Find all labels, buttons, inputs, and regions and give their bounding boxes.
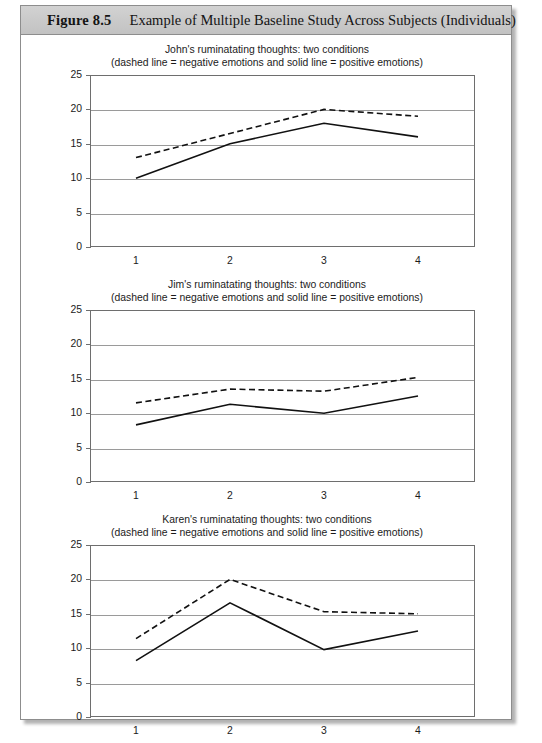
figure-number: Figure 8.5 (47, 12, 112, 29)
series-layer (90, 545, 475, 717)
x-axis-label: 1 (116, 490, 156, 501)
y-axis-label: 10 (42, 643, 82, 653)
series-layer (90, 75, 475, 247)
chart-subtitle-line: (dashed line = negative emotions and sol… (21, 526, 513, 539)
series-line-dashed (136, 377, 418, 403)
x-axis-label: 1 (116, 255, 156, 266)
y-axis-label: 5 (42, 678, 82, 688)
y-axis-label: 20 (42, 574, 82, 584)
figure-page: Figure 8.5 Example of Multiple Baseline … (0, 0, 542, 743)
y-axis-label: 0 (42, 477, 82, 487)
chart-title: Karen's ruminatating thoughts: two condi… (21, 505, 513, 539)
series-line-solid (136, 396, 418, 425)
y-axis-label: 10 (42, 173, 82, 183)
plot-wrapper: 25201510501234 (21, 75, 513, 273)
x-axis-label: 3 (304, 490, 344, 501)
x-axis-label: 3 (304, 255, 344, 266)
series-line-solid (136, 123, 418, 178)
series-layer (90, 310, 475, 482)
chart-3: Karen's ruminatating thoughts: two condi… (21, 505, 513, 743)
chart-subtitle-line: (dashed line = negative emotions and sol… (21, 291, 513, 304)
figure-frame: Figure 8.5 Example of Multiple Baseline … (20, 5, 512, 720)
x-axis-label: 2 (210, 490, 250, 501)
chart-subtitle-line: (dashed line = negative emotions and sol… (21, 56, 513, 69)
figure-header-bar: Figure 8.5 Example of Multiple Baseline … (21, 6, 511, 35)
x-axis-label: 3 (304, 725, 344, 736)
y-axis-label: 15 (42, 374, 82, 384)
y-axis-tick (86, 247, 91, 248)
y-axis-label: 20 (42, 104, 82, 114)
y-axis-label: 25 (42, 70, 82, 80)
chart-title: Jim's ruminatating thoughts: two conditi… (21, 270, 513, 304)
x-axis-label: 2 (210, 725, 250, 736)
y-axis-label: 0 (42, 712, 82, 722)
chart-1: John's ruminatating thoughts: two condit… (21, 35, 513, 273)
plot-wrapper: 25201510501234 (21, 545, 513, 743)
plot-wrapper: 25201510501234 (21, 310, 513, 508)
y-axis-label: 10 (42, 408, 82, 418)
y-axis-label: 15 (42, 139, 82, 149)
x-axis-label: 2 (210, 255, 250, 266)
y-axis-label: 25 (42, 540, 82, 550)
y-axis-label: 15 (42, 609, 82, 619)
series-line-dashed (136, 579, 418, 638)
x-axis-label: 4 (398, 255, 438, 266)
y-axis-label: 0 (42, 242, 82, 252)
x-axis-label: 1 (116, 725, 156, 736)
x-axis-label: 4 (398, 725, 438, 736)
chart-title-line: John's ruminatating thoughts: two condit… (21, 43, 513, 56)
y-axis-tick (86, 482, 91, 483)
y-axis-label: 5 (42, 208, 82, 218)
y-axis-label: 25 (42, 305, 82, 315)
chart-title-line: Karen's ruminatating thoughts: two condi… (21, 513, 513, 526)
x-axis-label: 4 (398, 490, 438, 501)
chart-title-line: Jim's ruminatating thoughts: two conditi… (21, 278, 513, 291)
y-axis-tick (86, 717, 91, 718)
y-axis-label: 5 (42, 443, 82, 453)
figure-caption: Example of Multiple Baseline Study Acros… (130, 12, 516, 29)
chart-title: John's ruminatating thoughts: two condit… (21, 35, 513, 69)
y-axis-label: 20 (42, 339, 82, 349)
chart-2: Jim's ruminatating thoughts: two conditi… (21, 270, 513, 508)
